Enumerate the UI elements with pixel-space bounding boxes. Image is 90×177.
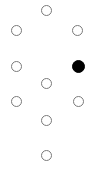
radio-option-lower-center[interactable] (41, 115, 52, 126)
radio-option-middle-right[interactable] (72, 60, 85, 73)
radio-option-center[interactable] (41, 78, 52, 89)
radio-option-top[interactable] (41, 5, 52, 16)
radio-option-middle-left[interactable] (11, 61, 22, 72)
radio-option-lower-left[interactable] (11, 96, 22, 107)
radio-option-lower-right[interactable] (73, 96, 84, 107)
radio-button-group (0, 0, 90, 177)
radio-option-upper-right[interactable] (72, 25, 83, 36)
radio-option-bottom[interactable] (41, 150, 52, 161)
radio-option-upper-left[interactable] (11, 25, 22, 36)
